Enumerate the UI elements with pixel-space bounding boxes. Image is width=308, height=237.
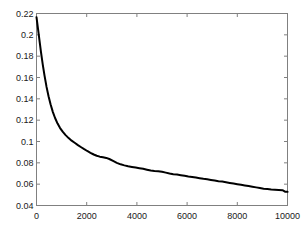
ytick-label: 0.16 (16, 73, 34, 83)
ytick-label: 0.04 (16, 201, 34, 211)
xtick-label: 6000 (177, 211, 197, 221)
ytick-label: 0.22 (16, 9, 34, 19)
xtick-label: 0 (34, 211, 39, 221)
xtick-label: 2000 (77, 211, 97, 221)
ytick-label: 0.06 (16, 179, 34, 189)
ytick-label: 0.2 (21, 30, 34, 40)
ytick-label: 0.12 (16, 115, 34, 125)
ytick-label: 0.14 (16, 94, 34, 104)
figure-container: 02000400060008000100000.040.060.080.10.1… (0, 0, 308, 237)
xtick-label: 4000 (127, 211, 147, 221)
line-chart: 02000400060008000100000.040.060.080.10.1… (0, 0, 308, 237)
xtick-label: 10000 (275, 211, 300, 221)
ytick-label: 0.18 (16, 51, 34, 61)
ytick-label: 0.08 (16, 158, 34, 168)
chart-background (0, 0, 308, 237)
xtick-label: 8000 (227, 211, 247, 221)
ytick-label: 0.1 (21, 137, 34, 147)
